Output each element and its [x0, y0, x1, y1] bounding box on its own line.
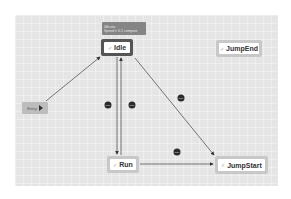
transition-gate-icon[interactable]: gate [178, 95, 185, 102]
entry-label: Entry [27, 106, 36, 111]
marker-label: gate [175, 151, 180, 154]
check-icon: ✓ [113, 162, 117, 168]
check-icon: ✓ [220, 46, 224, 52]
transition-tooltip: Idle.sta Speed > 0.1 compare [102, 22, 146, 35]
state-label: Idle [114, 44, 126, 51]
state-node-jumpstart[interactable]: ✓ JumpStart [215, 156, 268, 174]
marker-label: gate [106, 104, 111, 107]
check-icon: ✓ [108, 45, 112, 51]
transition-gate-icon[interactable]: gate [174, 149, 181, 156]
tooltip-line-2: Speed > 0.1 compare [104, 29, 144, 33]
marker-label: gate [130, 104, 135, 107]
state-node-jumpend[interactable]: ✓ JumpEnd [216, 40, 262, 57]
transition-gate-icon[interactable]: gate [105, 102, 112, 109]
transition-gate-icon[interactable]: gate [129, 102, 136, 109]
state-label: JumpStart [227, 162, 262, 169]
entry-node[interactable]: Entry [22, 102, 48, 114]
marker-label: gate [179, 97, 184, 100]
state-node-run[interactable]: ✓ Run [107, 156, 139, 173]
state-label: Run [119, 161, 133, 168]
play-icon [39, 105, 43, 111]
state-node-idle[interactable]: ✓ Idle [101, 39, 133, 56]
state-label: JumpEnd [226, 45, 258, 52]
check-icon: ✓ [221, 162, 225, 168]
